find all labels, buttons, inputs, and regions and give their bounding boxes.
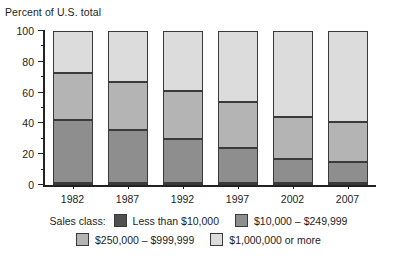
y-axis-tick <box>38 122 45 123</box>
x-axis-tick <box>128 185 129 189</box>
legend-swatch-icon <box>235 214 248 227</box>
bar-segment <box>218 31 258 102</box>
y-axis-tick-label: 80 <box>22 56 34 68</box>
bar-2002[interactable] <box>273 31 313 185</box>
y-axis-tick-label: 60 <box>22 87 34 99</box>
bar-segment <box>108 82 148 130</box>
legend-item-1000000-or-more[interactable]: $1,000,000 or more <box>210 233 321 246</box>
x-axis-tick <box>73 185 74 189</box>
bar-segment <box>328 122 368 162</box>
x-axis-tick <box>348 185 349 189</box>
y-axis-minor-tick <box>41 45 45 46</box>
y-axis-tick <box>38 61 45 62</box>
y-axis-title: Percent of U.S. total <box>5 6 101 18</box>
bar-segment <box>273 117 313 159</box>
legend-item-label: Less than $10,000 <box>133 215 219 227</box>
x-axis-tick <box>183 185 184 189</box>
bar-2007[interactable] <box>328 31 368 185</box>
legend-item-less-than-10000[interactable]: Less than $10,000 <box>114 214 219 227</box>
chart-legend: Sales class: Less than $10,000 $10,000 –… <box>0 211 397 249</box>
bar-segment <box>273 159 313 184</box>
legend-item-label: $1,000,000 or more <box>229 234 321 246</box>
y-axis-minor-tick <box>41 169 45 170</box>
y-axis-minor-tick <box>41 76 45 77</box>
legend-item-250000-999999[interactable]: $250,000 – $999,999 <box>76 233 194 246</box>
legend-swatch-icon <box>76 233 89 246</box>
bar-segment <box>218 102 258 148</box>
x-axis-tick-label: 1997 <box>226 193 249 205</box>
bar-segment <box>163 139 203 183</box>
bar-segment <box>108 31 148 82</box>
x-axis-line <box>43 185 376 187</box>
bar-1992[interactable] <box>163 31 203 185</box>
plot-area: 020406080100198219871992199720022007 <box>45 31 375 185</box>
y-axis-tick-label: 20 <box>22 148 34 160</box>
stacked-bar-chart: Percent of U.S. total 020406080100198219… <box>0 0 397 266</box>
bar-1997[interactable] <box>218 31 258 185</box>
x-axis-tick-label: 1992 <box>171 193 194 205</box>
y-axis-tick-label: 0 <box>28 179 34 191</box>
x-axis-tick-label: 2007 <box>336 193 359 205</box>
legend-lead-label: Sales class: <box>50 215 106 227</box>
x-axis-tick-label: 2002 <box>281 193 304 205</box>
bar-segment <box>273 31 313 117</box>
bar-segment <box>328 31 368 122</box>
legend-item-label: $250,000 – $999,999 <box>95 234 194 246</box>
legend-swatch-icon <box>114 214 127 227</box>
bar-segment <box>328 162 368 184</box>
bar-segment <box>53 120 93 183</box>
bar-1987[interactable] <box>108 31 148 185</box>
y-axis-tick-label: 40 <box>22 117 34 129</box>
x-axis-tick-label: 1987 <box>116 193 139 205</box>
legend-row-1: Sales class: Less than $10,000 $10,000 –… <box>0 211 397 230</box>
bar-segment <box>108 130 148 183</box>
legend-item-label: $10,000 – $249,999 <box>254 215 347 227</box>
y-axis-minor-tick <box>41 107 45 108</box>
legend-row-2: $250,000 – $999,999 $1,000,000 or more <box>0 230 397 249</box>
x-axis-tick <box>238 185 239 189</box>
bar-segment <box>163 91 203 139</box>
legend-item-10000-249999[interactable]: $10,000 – $249,999 <box>235 214 347 227</box>
y-axis-tick <box>38 184 45 185</box>
y-axis-tick <box>38 30 45 31</box>
legend-swatch-icon <box>210 233 223 246</box>
bar-segment <box>218 148 258 183</box>
bar-1982[interactable] <box>53 31 93 185</box>
y-axis-tick <box>38 153 45 154</box>
bar-segment <box>53 31 93 73</box>
bar-segment <box>163 31 203 91</box>
bar-segment <box>53 73 93 119</box>
x-axis-tick <box>293 185 294 189</box>
x-axis-tick-label: 1982 <box>61 193 84 205</box>
y-axis-tick-label: 100 <box>16 25 34 37</box>
y-axis-tick <box>38 92 45 93</box>
y-axis-minor-tick <box>41 138 45 139</box>
